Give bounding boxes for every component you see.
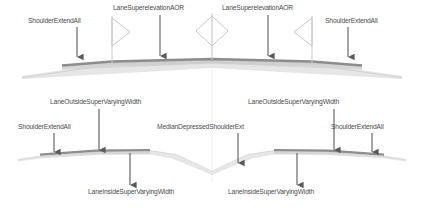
label-lane-outside-super-varying-width-left: LaneOutsideSuperVaryingWidth (50, 98, 141, 106)
label-lane-superelevation-aor-left: LaneSuperelevationAOR (113, 4, 184, 12)
label-lane-inside-super-varying-width-right: LaneInsideSuperVaryingWidth (228, 188, 314, 196)
label-lane-superelevation-aor-right: LaneSuperelevationAOR (222, 4, 293, 12)
flag-marker-right-glyph (294, 18, 312, 46)
label-lane-inside-super-varying-width-left: LaneInsideSuperVaryingWidth (88, 188, 174, 196)
diagram-canvas: ShoulderExtendAllLaneSuperelevationAORLa… (0, 0, 424, 209)
label-shoulder-extend-all-right: ShoulderExtendAll (325, 17, 378, 25)
top-markers (112, 14, 312, 63)
flag-marker-left-glyph (112, 18, 130, 46)
label-median-depressed-shoulder-ext: MedianDepressedShoulderExt (157, 123, 244, 131)
label-shoulder-extend-all-bottom-left: ShoulderExtendAll (18, 123, 71, 131)
label-shoulder-extend-all-left: ShoulderExtendAll (28, 17, 81, 25)
label-lane-outside-super-varying-width-right: LaneOutsideSuperVaryingWidth (248, 98, 339, 106)
label-shoulder-extend-all-bottom-right: ShoulderExtendAll (331, 123, 384, 131)
